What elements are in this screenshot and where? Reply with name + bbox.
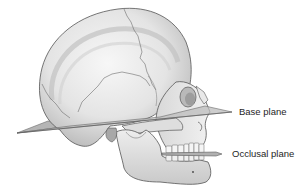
occlusal-plane-label: Occlusal plane (232, 148, 294, 159)
base-plane-label: Base plane (239, 106, 287, 117)
skull-diagram (0, 0, 305, 193)
occlusal-plane (162, 152, 222, 156)
